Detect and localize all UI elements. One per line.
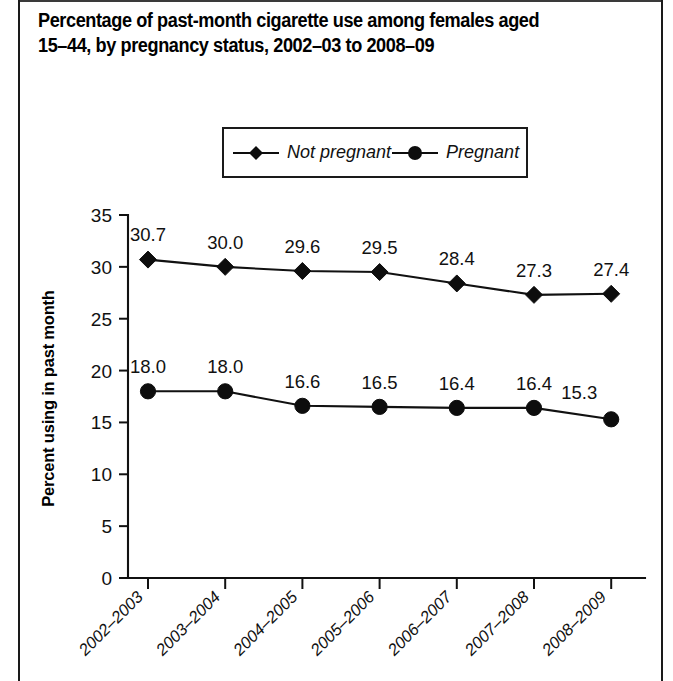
chart-page: Percentage of past-month cigarette use a…	[0, 0, 673, 681]
data-point-diamond-marker	[448, 275, 465, 292]
data-point-label: 29.5	[362, 237, 398, 258]
data-point-diamond-marker	[526, 286, 543, 303]
x-tick-label: 2003–2004	[151, 587, 223, 659]
data-point-circle-marker	[604, 412, 619, 427]
x-axis-ticks	[148, 578, 611, 589]
chart-legend: Not pregnant Pregnant	[222, 127, 528, 178]
x-axis-label-layer: 2002–20032003–20042004–20052005–20062006…	[74, 587, 609, 659]
legend-item-not-pregnant: Not pregnant	[232, 142, 391, 163]
x-tick-label: 2008–2009	[537, 587, 609, 659]
y-tick-label: 15	[91, 412, 112, 433]
x-tick-label: 2004–2005	[229, 587, 301, 659]
data-point-label: 30.0	[207, 232, 243, 253]
line-chart-plot: 05101520253035 30.730.029.629.528.427.32…	[0, 0, 673, 681]
y-tick-label: 0	[101, 568, 112, 589]
data-point-circle-marker	[526, 400, 541, 415]
legend-label-pregnant: Pregnant	[446, 142, 519, 163]
data-point-label: 28.4	[439, 248, 475, 269]
data-point-label: 27.4	[593, 259, 629, 280]
x-tick-label: 2005–2006	[306, 587, 378, 659]
x-tick-label: 2002–2003	[74, 587, 146, 659]
data-point-label: 16.6	[284, 371, 320, 392]
data-point-label: 18.0	[207, 356, 243, 377]
y-tick-label: 25	[91, 309, 112, 330]
circle-marker-icon	[391, 143, 439, 163]
data-point-circle-marker	[295, 398, 310, 413]
data-point-circle-marker	[140, 384, 155, 399]
data-point-diamond-marker	[603, 285, 620, 302]
data-point-circle-marker	[218, 384, 233, 399]
x-tick-label: 2006–2007	[383, 587, 455, 659]
legend-label-not-pregnant: Not pregnant	[287, 142, 391, 163]
x-tick-label: 2007–2008	[460, 587, 532, 659]
data-point-label: 27.3	[516, 260, 552, 281]
data-point-diamond-marker	[371, 264, 388, 281]
y-tick-label: 20	[91, 361, 112, 382]
data-label-layer: 30.730.029.629.528.427.327.418.018.016.6…	[130, 224, 629, 404]
y-tick-label: 10	[91, 464, 112, 485]
data-point-label: 29.6	[284, 236, 320, 257]
data-point-label: 30.7	[130, 224, 166, 245]
y-tick-label: 5	[101, 516, 112, 537]
data-point-label: 18.0	[130, 356, 166, 377]
data-point-diamond-marker	[294, 263, 311, 280]
diamond-marker-icon	[232, 143, 280, 163]
legend-item-pregnant: Pregnant	[391, 142, 519, 163]
y-axis-ticks: 05101520253035	[91, 205, 128, 589]
data-point-label: 16.4	[439, 373, 475, 394]
data-point-circle-marker	[449, 400, 464, 415]
data-point-label: 15.3	[561, 382, 597, 403]
y-tick-label: 30	[91, 257, 112, 278]
data-point-label: 16.5	[362, 372, 398, 393]
data-point-diamond-marker	[217, 258, 234, 275]
data-point-diamond-marker	[140, 251, 157, 268]
data-point-label: 16.4	[516, 373, 552, 394]
data-point-circle-marker	[372, 399, 387, 414]
y-tick-label: 35	[91, 205, 112, 226]
